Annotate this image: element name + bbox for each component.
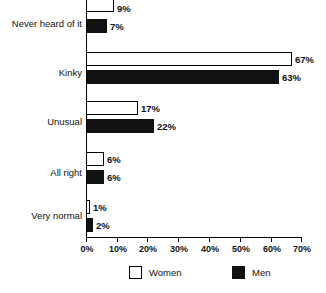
bar-value-men-very-normal: 2% <box>96 220 110 231</box>
category-label-very-normal: Very normal <box>31 210 82 221</box>
bar-value-men-never-heard-of-it: 7% <box>110 21 124 32</box>
x-tick-10 <box>117 238 118 242</box>
x-tick-50 <box>240 238 241 242</box>
x-tick-40 <box>209 238 210 242</box>
bar-value-women-never-heard-of-it: 9% <box>117 3 131 14</box>
x-tick-label-70: 70% <box>293 244 311 254</box>
bar-value-women-unusual: 17% <box>141 103 160 114</box>
x-tick-0 <box>86 238 87 242</box>
bar-value-women-all-right: 6% <box>107 154 121 165</box>
category-label-unusual: Unusual <box>47 116 82 127</box>
x-tick-20 <box>147 238 148 242</box>
bar-men-all-right <box>86 170 104 184</box>
x-tick-label-60: 60% <box>263 244 281 254</box>
bar-value-men-unusual: 22% <box>157 121 176 132</box>
legend-swatch-women-icon <box>129 266 142 279</box>
x-tick-label-50: 50% <box>232 244 250 254</box>
x-tick-label-0: 0% <box>80 244 93 254</box>
bar-chart: Never heard of it Kinky Unusual All righ… <box>0 0 326 293</box>
clipped-footnote <box>0 288 326 293</box>
bar-value-women-kinky: 67% <box>295 54 314 65</box>
bar-women-kinky <box>86 52 292 66</box>
x-tick-label-10: 10% <box>109 244 127 254</box>
x-tick-30 <box>178 238 179 242</box>
legend-swatch-men-icon <box>232 266 245 279</box>
bar-value-women-very-normal: 1% <box>93 202 107 213</box>
legend-label-men: Men <box>252 267 270 278</box>
bar-women-all-right <box>86 152 104 166</box>
x-tick-60 <box>271 238 272 242</box>
legend-item-men: Men <box>232 266 270 279</box>
bar-men-kinky <box>86 70 279 84</box>
bar-value-men-all-right: 6% <box>107 172 121 183</box>
x-axis-line <box>86 237 302 238</box>
legend-item-women: Women <box>129 266 182 279</box>
legend-label-women: Women <box>149 267 182 278</box>
bar-women-unusual <box>86 101 138 115</box>
x-tick-label-30: 30% <box>170 244 188 254</box>
x-tick-label-40: 40% <box>201 244 219 254</box>
y-axis-line <box>86 0 87 238</box>
bar-men-never-heard-of-it <box>86 19 107 33</box>
bar-men-very-normal <box>86 218 93 232</box>
bar-men-unusual <box>86 119 154 133</box>
x-tick-70 <box>301 238 302 242</box>
bar-value-men-kinky: 63% <box>282 72 301 83</box>
category-label-kinky: Kinky <box>59 67 82 78</box>
category-label-all-right: All right <box>50 167 82 178</box>
x-tick-label-20: 20% <box>139 244 157 254</box>
bar-women-never-heard-of-it <box>86 0 114 12</box>
category-label-never-heard-of-it: Never heard of it <box>12 18 82 29</box>
